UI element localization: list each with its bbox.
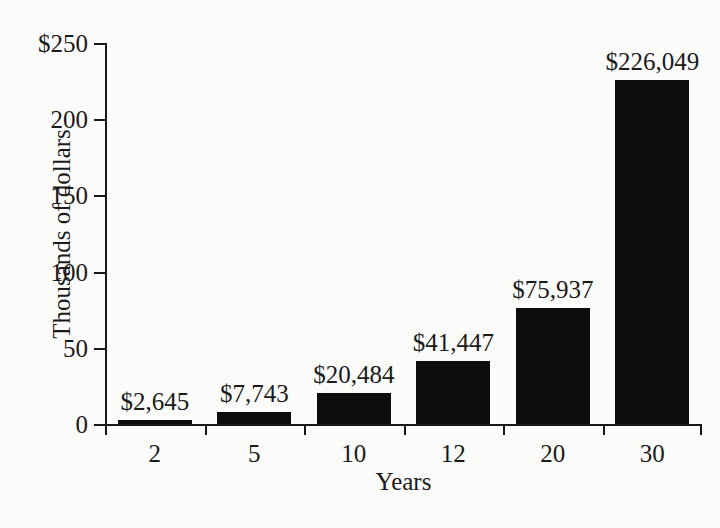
x-tick-mark: [603, 424, 605, 435]
bar: [615, 80, 689, 424]
y-axis-title: Thousands of dollars: [47, 43, 77, 425]
bar-value-label: $226,049: [567, 49, 720, 74]
bar: [217, 412, 291, 424]
y-tick-label: 50: [0, 336, 88, 361]
plot-area: 050100150200$250 2510122030 $2,645$7,743…: [105, 43, 702, 425]
y-tick-mark: [94, 348, 105, 350]
x-tick-mark: [404, 424, 406, 435]
x-tick-label: 30: [612, 441, 692, 466]
y-tick-mark: [94, 195, 105, 197]
x-tick-label: 20: [513, 441, 593, 466]
x-tick-mark: [105, 424, 107, 435]
y-tick-mark: [94, 272, 105, 274]
bar: [416, 361, 490, 424]
x-tick-label: 10: [314, 441, 394, 466]
x-axis-title: Years: [105, 468, 702, 496]
y-tick-label: 150: [0, 183, 88, 208]
y-tick-label: $250: [0, 31, 88, 56]
y-tick-label: 0: [0, 412, 88, 437]
x-tick-label: 5: [214, 441, 294, 466]
x-tick-label: 2: [115, 441, 195, 466]
x-tick-mark: [205, 424, 207, 435]
bar: [118, 420, 192, 424]
bar-value-label: $75,937: [468, 277, 638, 302]
x-tick-mark: [503, 424, 505, 435]
y-tick-mark: [94, 119, 105, 121]
y-tick-label: 100: [0, 260, 88, 285]
y-tick-label: 200: [0, 107, 88, 132]
bar: [317, 393, 391, 424]
bar-chart-figure: Thousands of dollars 050100150200$250 25…: [0, 0, 720, 528]
x-tick-mark: [304, 424, 306, 435]
bar: [516, 308, 590, 424]
y-tick-mark: [94, 43, 105, 45]
bar-value-label: $41,447: [368, 330, 538, 355]
bar-value-label: $20,484: [269, 362, 439, 387]
y-axis-line: [105, 43, 107, 426]
x-tick-label: 12: [413, 441, 493, 466]
y-tick-mark: [94, 424, 105, 426]
x-tick-mark: [700, 424, 702, 435]
